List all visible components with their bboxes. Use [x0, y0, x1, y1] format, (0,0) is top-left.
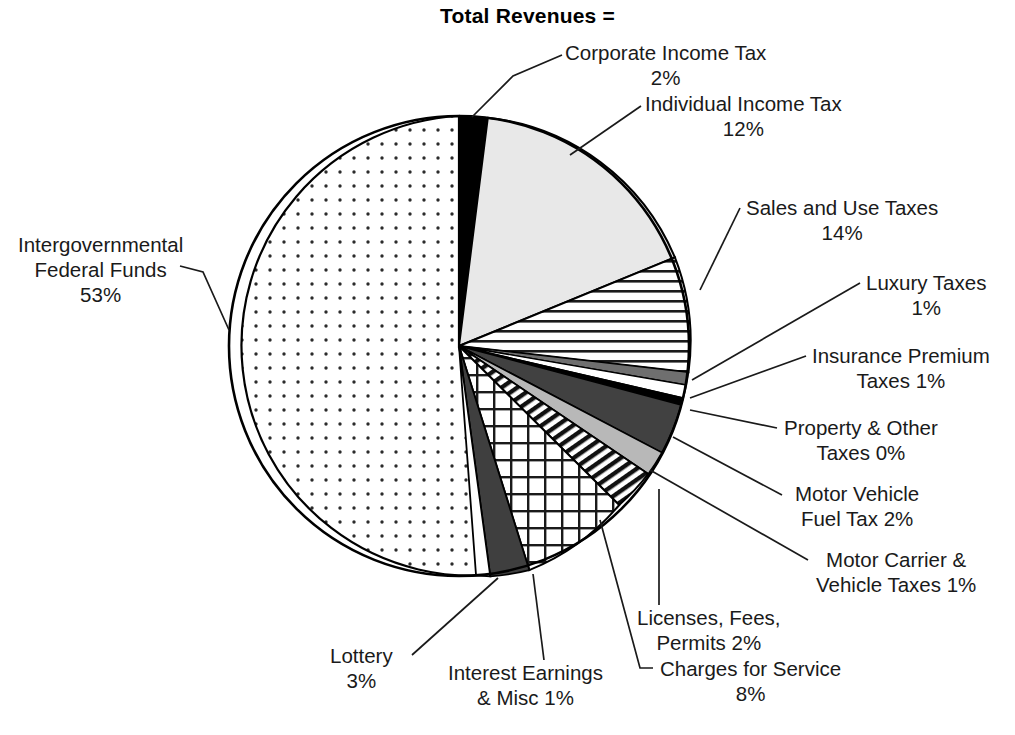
label-corporate-income-tax-line1: Corporate Income Tax [565, 41, 766, 64]
label-lottery: Lottery 3% [330, 643, 393, 693]
label-sales-and-use-taxes-line1: Sales and Use Taxes [746, 196, 938, 219]
label-corporate-income-tax: Corporate Income Tax 2% [565, 40, 766, 90]
label-intergovernmental-federal-funds-line3: 53% [18, 282, 183, 307]
label-corporate-income-tax-line2: 2% [565, 65, 766, 90]
leader-insurance-premium-taxes [690, 356, 806, 398]
label-licenses-fees-permits-line2: Permits 2% [637, 630, 781, 655]
label-interest-earnings-misc: Interest Earnings & Misc 1% [448, 660, 603, 710]
leader-sales-and-use-taxes [700, 208, 740, 290]
label-individual-income-tax-line1: Individual Income Tax [645, 92, 842, 115]
leader-lottery [412, 578, 498, 655]
label-charges-for-service: Charges for Service 8% [660, 656, 841, 706]
label-motor-vehicle-fuel-tax-line1: Motor Vehicle [795, 482, 919, 505]
label-insurance-premium-taxes-line2: Taxes 1% [812, 368, 990, 393]
label-interest-earnings-misc-line1: Interest Earnings [448, 661, 603, 684]
label-interest-earnings-misc-line2: & Misc 1% [448, 685, 603, 710]
label-charges-for-service-line1: Charges for Service [660, 657, 841, 680]
label-luxury-taxes: Luxury Taxes 1% [866, 270, 986, 320]
label-luxury-taxes-line1: Luxury Taxes [866, 271, 986, 294]
label-intergovernmental-federal-funds-line1: Intergovernmental [18, 233, 183, 256]
leader-property-and-other-taxes [690, 410, 777, 428]
label-sales-and-use-taxes-line2: 14% [746, 220, 938, 245]
label-licenses-fees-permits-line1: Licenses, Fees, [637, 606, 781, 629]
label-sales-and-use-taxes: Sales and Use Taxes 14% [746, 195, 938, 245]
label-licenses-fees-permits: Licenses, Fees, Permits 2% [637, 605, 781, 655]
label-lottery-line1: Lottery [330, 644, 393, 667]
label-property-and-other-taxes: Property & Other Taxes 0% [784, 415, 938, 465]
label-motor-vehicle-fuel-tax: Motor Vehicle Fuel Tax 2% [795, 481, 919, 531]
leader-intergovernmental-federal-funds [180, 266, 229, 330]
label-motor-carrier-vehicle-taxes: Motor Carrier & Vehicle Taxes 1% [816, 547, 976, 597]
label-lottery-line2: 3% [330, 668, 393, 693]
label-intergovernmental-federal-funds-line2: Federal Funds [18, 257, 183, 282]
label-motor-carrier-vehicle-taxes-line2: Vehicle Taxes 1% [816, 572, 976, 597]
pie-chart-figure: Total Revenues = [0, 0, 1015, 735]
leader-motor-carrier-vehicle-taxes [650, 470, 808, 560]
label-insurance-premium-taxes-line1: Insurance Premium [812, 344, 990, 367]
label-luxury-taxes-line2: 1% [866, 295, 986, 320]
leader-individual-income-tax [570, 106, 641, 155]
label-insurance-premium-taxes: Insurance Premium Taxes 1% [812, 343, 990, 393]
label-motor-vehicle-fuel-tax-line2: Fuel Tax 2% [795, 506, 919, 531]
label-property-and-other-taxes-line2: Taxes 0% [784, 440, 938, 465]
label-individual-income-tax-line2: 12% [645, 116, 842, 141]
leader-interest-earnings-misc [533, 574, 544, 660]
leader-motor-vehicle-fuel-tax [673, 437, 782, 495]
label-motor-carrier-vehicle-taxes-line1: Motor Carrier & [826, 548, 966, 571]
label-property-and-other-taxes-line1: Property & Other [784, 416, 938, 439]
label-intergovernmental-federal-funds: Intergovernmental Federal Funds 53% [18, 232, 183, 307]
pie-slices [229, 116, 691, 576]
label-individual-income-tax: Individual Income Tax 12% [645, 91, 842, 141]
leader-corporate-income-tax [472, 55, 562, 117]
label-charges-for-service-line2: 8% [660, 681, 841, 706]
